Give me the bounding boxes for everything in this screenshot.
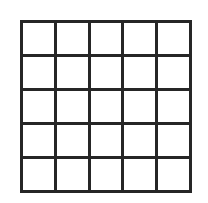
grid-cell-r4-c5 <box>158 125 189 156</box>
grid-cell-r5-c4 <box>124 159 155 190</box>
grid-cell-r2-c1 <box>23 57 54 88</box>
grid-cell-r5-c3 <box>91 159 122 190</box>
grid-cell-r4-c3 <box>91 125 122 156</box>
grid-cell-r2-c4 <box>124 57 155 88</box>
grid-cell-r1-c5 <box>158 23 189 54</box>
grid-cell-r3-c1 <box>23 91 54 122</box>
grid-cell-r5-c2 <box>57 159 88 190</box>
grid-cell-r3-c2 <box>57 91 88 122</box>
grid-cell-r2-c2 <box>57 57 88 88</box>
grid-cell-r5-c5 <box>158 159 189 190</box>
grid-cell-r1-c4 <box>124 23 155 54</box>
grid-cell-r1-c1 <box>23 23 54 54</box>
grid-cell-r4-c4 <box>124 125 155 156</box>
grid-cell-r3-c3 <box>91 91 122 122</box>
grid-cell-r4-c1 <box>23 125 54 156</box>
grid-cell-r3-c4 <box>124 91 155 122</box>
grid-cell-r1-c2 <box>57 23 88 54</box>
grid-cell-r5-c1 <box>23 159 54 190</box>
grid-cell-r4-c2 <box>57 125 88 156</box>
grid-cell-r1-c3 <box>91 23 122 54</box>
grid-cell-r2-c5 <box>158 57 189 88</box>
square-grid <box>20 20 192 193</box>
grid-cell-r3-c5 <box>158 91 189 122</box>
figure-canvas <box>0 0 208 203</box>
grid-cell-r2-c3 <box>91 57 122 88</box>
